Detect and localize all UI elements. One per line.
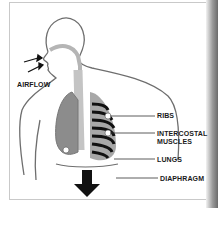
lung-marker: [63, 147, 69, 153]
label-intercostal-1: INTERCOSTAL: [157, 130, 207, 137]
left-lung: [56, 92, 78, 154]
label-intercostal-2: MUSCLES: [157, 138, 192, 145]
diaphragm: [56, 164, 118, 167]
label-diaphragm: DIAPHRAGM: [160, 175, 204, 182]
label-airflow: AIRFLOW: [17, 81, 50, 88]
airflow-arrows-icon: [24, 55, 43, 72]
label-ribs: RIBS: [157, 112, 174, 119]
down-arrow-icon: [74, 170, 100, 197]
label-lungs: LUNGS: [157, 156, 182, 163]
